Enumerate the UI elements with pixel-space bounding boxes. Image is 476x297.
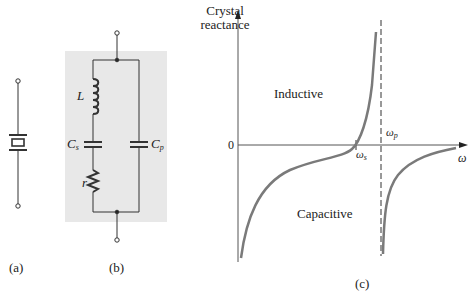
panel-b-label: (b)	[109, 260, 124, 276]
panel-c-label: (c)	[355, 276, 369, 292]
panel-a-label: (a)	[9, 260, 23, 276]
omega-s-label: ωs	[356, 148, 367, 162]
parallel-capacitor-label: Cp	[151, 136, 164, 152]
inductor-label: L	[77, 88, 84, 104]
inductive-region-label: Inductive	[274, 86, 323, 102]
capacitive-region-label: Capacitive	[297, 206, 353, 222]
omega-p-label: ωp	[386, 126, 398, 140]
resistor-label: r	[82, 175, 87, 191]
zero-label: 0	[228, 138, 234, 153]
reactance-curve-high	[383, 148, 456, 254]
x-axis-arrow-icon	[459, 142, 468, 148]
y-axis-label: Crystal reactance	[190, 4, 260, 32]
reactance-plot	[235, 10, 468, 262]
x-axis-label: ω	[458, 151, 466, 166]
crystal-symbol	[9, 79, 27, 208]
series-capacitor-label: Cs	[67, 136, 79, 152]
